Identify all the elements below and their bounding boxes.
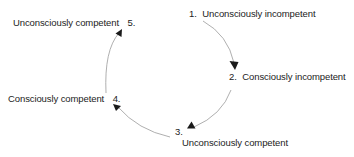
stage-1-label: Unconsciously incompetent — [202, 8, 315, 19]
stage-4-number: 4. — [113, 93, 121, 104]
arrow-2-to-3 — [187, 90, 231, 129]
stage-4-label: Consciously competent — [8, 93, 104, 104]
arrow-4-to-5 — [106, 29, 122, 93]
stage-2-label: Consciously incompetent — [242, 71, 345, 82]
arrowhead-icon — [230, 61, 239, 70]
arrowhead-icon — [187, 122, 196, 129]
stage-2: 2. Consciously incompetent — [229, 71, 346, 82]
stage-3-number: 3. — [175, 126, 183, 137]
stage-5-number: 5. — [128, 17, 136, 28]
stage-3-label: Unconsciously competent — [182, 137, 288, 148]
arrowhead-icon — [113, 104, 121, 111]
stage-1-number: 1. — [189, 8, 197, 19]
stage-5: Unconsciously competent 5. — [13, 17, 135, 28]
stage-4: Consciously competent 4. — [8, 93, 120, 104]
stage-5-label: Unconsciously competent — [13, 17, 119, 28]
stage-2-number: 2. — [229, 71, 237, 82]
arrow-1-to-2 — [203, 21, 239, 70]
stage-1: 1. Unconsciously incompetent — [189, 8, 315, 19]
arrow-3-to-4 — [113, 104, 170, 137]
